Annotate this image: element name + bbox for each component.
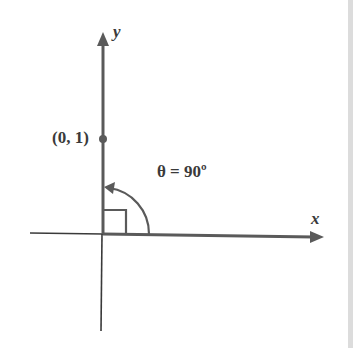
y-axis-label: y bbox=[113, 22, 121, 42]
arc-arrowhead-icon bbox=[104, 182, 115, 194]
point-label: (0, 1) bbox=[52, 128, 89, 148]
right-angle-marker bbox=[103, 210, 126, 234]
positive-x-axis bbox=[103, 234, 314, 237]
y-axis-arrowhead-icon bbox=[97, 32, 109, 46]
page-edge-strip bbox=[348, 0, 353, 348]
x-axis-label: x bbox=[311, 209, 320, 229]
x-axis-arrowhead-icon bbox=[310, 231, 324, 243]
negative-x-axis bbox=[30, 233, 103, 234]
point-0-1 bbox=[99, 135, 107, 143]
angle-label: θ = 90º bbox=[157, 162, 207, 182]
negative-y-axis bbox=[101, 234, 102, 331]
